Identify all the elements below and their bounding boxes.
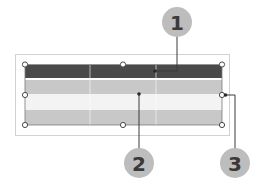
leader-dot-1 [153, 69, 157, 73]
handle-top-right[interactable] [219, 62, 224, 67]
callout-number-3: 3 [228, 152, 242, 176]
handle-top-left[interactable] [22, 62, 27, 67]
handle-bottom-right[interactable] [219, 122, 224, 127]
band-row-1[interactable] [25, 80, 222, 94]
leader-dot-3 [224, 93, 228, 97]
handle-bottom-center[interactable] [120, 122, 125, 127]
table[interactable] [25, 65, 222, 126]
callout-number-2: 2 [132, 152, 146, 176]
handle-bottom-left[interactable] [22, 122, 27, 127]
light-row[interactable] [25, 94, 222, 110]
handle-top-center[interactable] [120, 62, 125, 67]
handle-middle-left[interactable] [22, 92, 27, 97]
callout-number-1: 1 [170, 11, 184, 35]
table-selection-diagram: 1 2 3 [0, 0, 262, 194]
leader-dot-2 [137, 92, 141, 96]
